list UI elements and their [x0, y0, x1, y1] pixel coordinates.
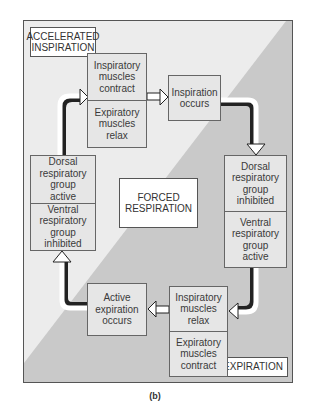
expiration-label: EXPIRATION: [218, 357, 288, 377]
dorsal-group-active: Dorsal respiratory group active: [31, 156, 95, 203]
active-expiration-text: Active expiration occurs: [88, 284, 146, 335]
expiratory-muscles-relax: Expiratory muscles relax: [88, 100, 146, 147]
node-bottom-muscles: Inspiratory muscles relax Expiratory mus…: [169, 286, 228, 377]
inspiration-occurs-text: Inspiration occurs: [169, 76, 220, 120]
node-top-muscles: Inspiratory muscles contract Expiratory …: [87, 53, 147, 148]
dorsal-group-inhibited: Dorsal respiratory group inhibited: [225, 156, 286, 211]
forced-respiration-label: FORCED RESPIRATION: [119, 178, 198, 228]
node-inspiration-occurs: Inspiration occurs: [168, 75, 221, 121]
expiratory-muscles-contract: Expiratory muscles contract: [170, 331, 227, 376]
inspiratory-muscles-contract: Inspiratory muscles contract: [88, 54, 146, 100]
node-left-respiratory-groups: Dorsal respiratory group active Ventral …: [30, 155, 96, 251]
ventral-group-inhibited: Ventral respiratory group inhibited: [31, 203, 95, 251]
ventral-group-active: Ventral respiratory group active: [225, 211, 286, 267]
inspiratory-muscles-relax: Inspiratory muscles relax: [170, 287, 227, 331]
node-active-expiration: Active expiration occurs: [87, 283, 147, 336]
node-right-respiratory-groups: Dorsal respiratory group inhibited Ventr…: [224, 155, 287, 268]
figure-caption: (b): [0, 391, 310, 401]
